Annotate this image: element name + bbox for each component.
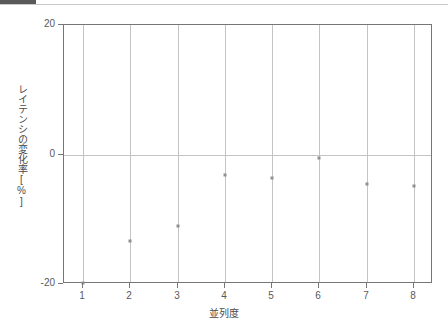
x-tick-mark-3: [177, 283, 178, 288]
x-tick-label-6: 6: [308, 290, 328, 301]
x-tick-label-4: 4: [214, 290, 234, 301]
gridline-x-3: [178, 25, 179, 282]
y-tick-label--20: -20: [11, 278, 55, 288]
y-tick-mark--20: [58, 283, 63, 284]
gridline-x-4: [225, 25, 226, 282]
x-tick-mark-8: [413, 283, 414, 288]
data-point-5: [271, 176, 274, 179]
x-tick-mark-6: [318, 283, 319, 288]
y-tick-label-0: 0: [11, 149, 55, 159]
data-point-7: [365, 183, 368, 186]
data-point-8: [413, 184, 416, 187]
gridline-x-7: [367, 25, 368, 282]
data-point-4: [223, 173, 226, 176]
data-point-6: [318, 157, 321, 160]
x-tick-mark-5: [271, 283, 272, 288]
gridline-x-6: [319, 25, 320, 282]
x-tick-label-5: 5: [261, 290, 281, 301]
data-point-2: [129, 239, 132, 242]
x-tick-label-1: 1: [72, 290, 92, 301]
x-tick-label-8: 8: [403, 290, 423, 301]
y-axis-title: レイテンシの変化率[%]: [11, 84, 27, 207]
x-axis-title: 並列度: [0, 308, 448, 320]
gridline-x-1: [83, 25, 84, 282]
gridline-x-5: [272, 25, 273, 282]
x-tick-label-3: 3: [167, 290, 187, 301]
chart-figure: レイテンシの変化率[%] -20020 12345678 並列度: [0, 0, 448, 330]
plot-area: [63, 24, 432, 283]
y-tick-label-20: 20: [11, 19, 55, 29]
gridline-x-8: [414, 25, 415, 282]
data-point-3: [176, 225, 179, 228]
x-tick-label-2: 2: [119, 290, 139, 301]
x-tick-mark-4: [224, 283, 225, 288]
x-tick-mark-7: [366, 283, 367, 288]
zero-line: [64, 155, 431, 156]
x-tick-mark-2: [129, 283, 130, 288]
x-tick-mark-1: [82, 283, 83, 288]
x-tick-label-7: 7: [356, 290, 376, 301]
gridline-x-2: [130, 25, 131, 282]
